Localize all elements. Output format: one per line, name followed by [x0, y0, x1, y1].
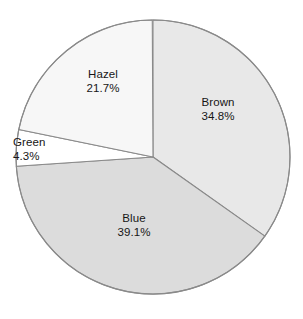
slice-label-hazel: Hazel 21.7%: [72, 68, 134, 95]
slice-label-green: Green 4.3%: [13, 136, 71, 163]
slice-label-hazel-name: Hazel: [72, 68, 134, 82]
slice-label-brown-percent: 34.8%: [187, 110, 249, 124]
slice-label-blue: Blue 39.1%: [103, 212, 165, 239]
slice-label-green-percent: 4.3%: [13, 150, 71, 164]
slice-label-green-name: Green: [13, 136, 71, 150]
pie-chart: Brown 34.8% Hazel 21.7% Green 4.3% Blue …: [0, 0, 303, 319]
slice-label-blue-percent: 39.1%: [103, 226, 165, 240]
slice-label-brown-name: Brown: [187, 96, 249, 110]
slice-label-blue-name: Blue: [103, 212, 165, 226]
slice-label-brown: Brown 34.8%: [187, 96, 249, 123]
slice-label-hazel-percent: 21.7%: [72, 82, 134, 96]
